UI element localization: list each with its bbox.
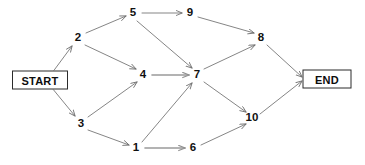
start-terminal-label: START [22,74,59,86]
edge-7-to-10 [204,82,246,112]
node-label: 4 [140,68,146,80]
node-7[interactable]: 7 [194,69,200,81]
edges-group [52,13,302,148]
node-2[interactable]: 2 [75,32,81,44]
node-10[interactable]: 10 [246,112,259,124]
node-label: 3 [78,117,84,129]
node-label: 10 [246,111,259,123]
edge-START-to-3 [52,88,75,116]
edge-3-to-4 [88,82,137,117]
node-label: 1 [133,141,139,153]
node-label: 7 [194,68,200,80]
edge-9-to-8 [198,17,254,33]
edge-10-to-END [260,81,302,114]
edge-7-to-8 [204,45,255,69]
node-4[interactable]: 4 [140,69,146,81]
edge-START-to-2 [52,46,72,73]
end-terminal-label: END [315,73,339,85]
network-diagram-canvas: 12345678910 START END [0,0,365,165]
edge-6-to-10 [201,124,246,145]
node-1[interactable]: 1 [133,142,139,154]
edge-3-to-1 [88,130,129,145]
node-6[interactable]: 6 [190,142,196,154]
node-label: 5 [130,6,136,18]
end-terminal[interactable]: END [303,70,352,89]
edge-2-to-4 [85,45,136,69]
node-3[interactable]: 3 [78,118,84,130]
node-label: 2 [75,31,81,43]
edge-2-to-5 [86,16,126,33]
node-8[interactable]: 8 [258,32,264,44]
node-5[interactable]: 5 [130,7,136,19]
edge-1-to-7 [142,83,192,142]
node-label: 8 [258,31,264,43]
edge-8-to-END [267,45,302,77]
node-label: 6 [190,141,196,153]
node-label: 9 [187,6,193,18]
edge-5-to-7 [137,21,192,68]
node-9[interactable]: 9 [187,7,193,19]
start-terminal[interactable]: START [12,71,68,90]
